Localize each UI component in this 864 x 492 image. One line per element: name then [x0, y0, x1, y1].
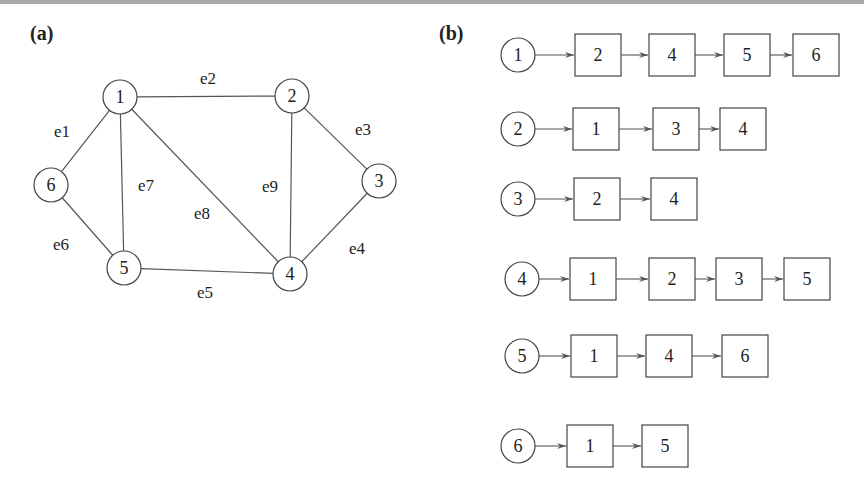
- node-label: 3: [375, 171, 384, 191]
- node-label: 6: [47, 175, 56, 195]
- head-node-label: 2: [514, 119, 523, 139]
- node-label: 5: [120, 258, 129, 278]
- figure-canvas: (a) (b) e1e2e3e4e5e6e7e8e9123456 1245621…: [0, 0, 864, 492]
- undirected-graph: e1e2e3e4e5e6e7e8e9123456: [34, 69, 396, 302]
- head-node-label: 4: [518, 269, 527, 289]
- node-label: 2: [288, 86, 297, 106]
- adjacency-row-2: 2134: [501, 108, 766, 150]
- graph-node-3: 3: [362, 164, 396, 198]
- list-node-label: 1: [586, 436, 595, 456]
- edge-label: e7: [138, 176, 155, 195]
- list-node-label: 4: [668, 45, 677, 65]
- edge-e1: [61, 110, 109, 171]
- edge-label: e9: [262, 177, 278, 196]
- edge-label: e1: [54, 122, 70, 141]
- list-node-label: 2: [593, 189, 602, 209]
- list-node-label: 3: [735, 269, 744, 289]
- adjacency-row-3: 324: [501, 178, 697, 220]
- list-node-label: 1: [590, 346, 599, 366]
- edge-label: e5: [197, 283, 213, 302]
- graph-node-6: 6: [34, 168, 68, 202]
- list-node-label: 5: [803, 269, 812, 289]
- head-node-label: 1: [514, 45, 523, 65]
- list-node-label: 5: [743, 45, 752, 65]
- edge-label: e4: [349, 239, 366, 258]
- graph-node-2: 2: [275, 79, 309, 113]
- graph-node-4: 4: [273, 257, 307, 291]
- list-node-label: 2: [668, 269, 677, 289]
- adjacency-list: 124562134324412355146615: [501, 34, 839, 467]
- list-node-label: 5: [661, 436, 670, 456]
- edge-label: e6: [53, 235, 69, 254]
- edge-e7: [120, 114, 123, 251]
- list-node-label: 1: [592, 119, 601, 139]
- edge-e2: [137, 96, 275, 97]
- head-node-label: 3: [514, 189, 523, 209]
- list-node-label: 3: [672, 119, 681, 139]
- list-node-label: 2: [594, 45, 603, 65]
- adjacency-row-4: 41235: [505, 258, 830, 300]
- edge-e9: [290, 113, 292, 257]
- edge-label: e3: [355, 120, 371, 139]
- list-node-label: 6: [741, 346, 750, 366]
- adjacency-row-6: 615: [501, 425, 688, 467]
- panel-b-label: (b): [439, 22, 463, 45]
- list-node-label: 6: [812, 45, 821, 65]
- list-node-label: 4: [739, 119, 748, 139]
- graph-node-5: 5: [107, 251, 141, 285]
- list-node-label: 4: [665, 346, 674, 366]
- edge-e5: [141, 269, 273, 274]
- edge-e6: [62, 198, 113, 255]
- edge-label: e8: [194, 204, 210, 223]
- node-label: 1: [116, 87, 125, 107]
- node-label: 4: [286, 264, 295, 284]
- list-node-label: 1: [589, 269, 598, 289]
- adjacency-row-5: 5146: [505, 335, 768, 377]
- edge-label: e2: [200, 69, 216, 88]
- panel-a-label: (a): [30, 22, 53, 45]
- head-node-label: 5: [518, 346, 527, 366]
- list-node-label: 4: [670, 189, 679, 209]
- graph-node-1: 1: [103, 80, 137, 114]
- adjacency-row-1: 12456: [501, 34, 839, 76]
- head-node-label: 6: [514, 436, 523, 456]
